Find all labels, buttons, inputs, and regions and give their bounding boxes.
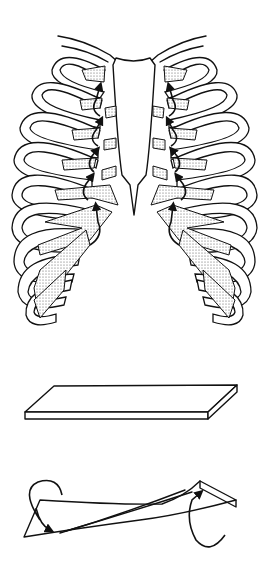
sternum [113,58,155,215]
twisted-bar [24,481,236,547]
diagram-canvas [0,0,269,565]
right-ribs [151,58,257,325]
flat-bar [25,385,237,419]
rib-cage [12,36,257,325]
figure [0,0,269,565]
